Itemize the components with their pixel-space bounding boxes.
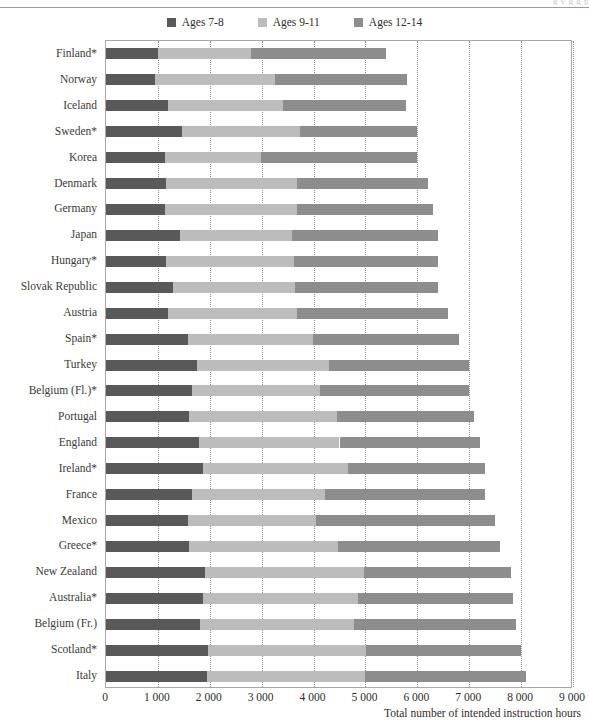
- bar-segment: [166, 178, 297, 189]
- bar-segment: [106, 152, 165, 163]
- bar-segment: [297, 204, 432, 215]
- bar-segment: [316, 515, 495, 526]
- bar-row: [106, 282, 573, 293]
- bar-segment: [261, 152, 418, 163]
- bar-segment: [366, 645, 521, 656]
- bar-segment: [106, 593, 203, 604]
- bar-row: [106, 593, 573, 604]
- category-label: Hungary*: [0, 254, 100, 266]
- square-swatch-icon: [354, 18, 363, 27]
- bar-segment: [358, 593, 513, 604]
- bar-segment: [192, 489, 325, 500]
- bar-segment: [106, 489, 192, 500]
- bar-row: [106, 126, 573, 137]
- bar-segment: [173, 282, 294, 293]
- x-tick-label: 5 000: [352, 691, 378, 703]
- category-label: New Zealand: [0, 565, 100, 577]
- category-label: Turkey: [0, 358, 100, 370]
- legend-label: Ages 12-14: [369, 16, 422, 28]
- bar-segment: [168, 308, 297, 319]
- bar-segment: [189, 411, 337, 422]
- category-label: Iceland: [0, 99, 100, 111]
- bar-row: [106, 567, 573, 578]
- bar-segment: [106, 385, 192, 396]
- bar-segment: [106, 178, 166, 189]
- bar-segment: [106, 463, 203, 474]
- category-label: Greece*: [0, 539, 100, 551]
- bar-segment: [203, 463, 348, 474]
- bar-segment: [106, 282, 173, 293]
- bar-segment: [275, 74, 407, 85]
- category-label: Finland*: [0, 47, 100, 59]
- bar-row: [106, 334, 573, 345]
- category-label: Korea: [0, 151, 100, 163]
- bar-segment: [106, 645, 208, 656]
- bar-segment: [106, 360, 197, 371]
- bar-row: [106, 515, 573, 526]
- bar-segment: [189, 541, 338, 552]
- x-tick-label: 6 000: [403, 691, 429, 703]
- bar-segment: [106, 126, 182, 137]
- bar-segment: [188, 334, 313, 345]
- bar-segment: [207, 671, 365, 682]
- category-label: Italy: [0, 669, 100, 681]
- bar-segment: [320, 385, 469, 396]
- category-label: England: [0, 436, 100, 448]
- bar-segment: [106, 256, 166, 267]
- bar-segment: [348, 463, 485, 474]
- bar-row: [106, 100, 573, 111]
- bar-segment: [294, 256, 438, 267]
- bar-segment: [337, 411, 474, 422]
- category-label: Scotland*: [0, 643, 100, 655]
- bar-segment: [325, 489, 485, 500]
- bar-segment: [165, 204, 298, 215]
- bar-segment: [354, 619, 516, 630]
- bar-segment: [364, 567, 510, 578]
- plot-area: [105, 40, 572, 688]
- bar-segment: [197, 360, 329, 371]
- legend-item: Ages 12-14: [354, 16, 422, 28]
- bar-segment: [106, 334, 188, 345]
- bar-segment: [251, 48, 386, 59]
- x-tick-label: 1 000: [144, 691, 170, 703]
- bar-segment: [106, 619, 200, 630]
- bar-segment: [297, 308, 449, 319]
- bar-segment: [192, 385, 320, 396]
- bar-segment: [106, 515, 188, 526]
- bar-row: [106, 463, 573, 474]
- bar-segment: [338, 541, 500, 552]
- legend-label: Ages 9-11: [273, 16, 320, 28]
- legend-item: Ages 7-8: [167, 16, 224, 28]
- bar-segment: [365, 671, 526, 682]
- bar-row: [106, 178, 573, 189]
- category-label: Japan: [0, 228, 100, 240]
- gridline: [573, 41, 574, 687]
- category-label: Portugal: [0, 410, 100, 422]
- bar-segment: [168, 100, 283, 111]
- bar-segment: [106, 308, 168, 319]
- x-tick-label: 2 000: [196, 691, 222, 703]
- bar-segment: [188, 515, 316, 526]
- stacked-bar-chart: g y g g p Ages 7-8Ages 9-11Ages 12-14 Fi…: [0, 0, 589, 724]
- bar-segment: [205, 567, 365, 578]
- legend-item: Ages 9-11: [258, 16, 320, 28]
- bar-segment: [292, 230, 438, 241]
- bar-segment: [203, 593, 359, 604]
- bar-segment: [106, 204, 165, 215]
- bar-segment: [106, 411, 189, 422]
- category-label: Denmark: [0, 177, 100, 189]
- bars-layer: [106, 41, 571, 687]
- bar-segment: [200, 619, 354, 630]
- bar-row: [106, 308, 573, 319]
- bar-row: [106, 48, 573, 59]
- bar-segment: [182, 126, 300, 137]
- bar-segment: [106, 48, 158, 59]
- bar-row: [106, 541, 573, 552]
- square-swatch-icon: [258, 18, 267, 27]
- x-tick-label: 3 000: [248, 691, 274, 703]
- category-label: Mexico: [0, 514, 100, 526]
- bar-segment: [295, 282, 438, 293]
- bar-row: [106, 619, 573, 630]
- bar-row: [106, 74, 573, 85]
- bar-segment: [180, 230, 293, 241]
